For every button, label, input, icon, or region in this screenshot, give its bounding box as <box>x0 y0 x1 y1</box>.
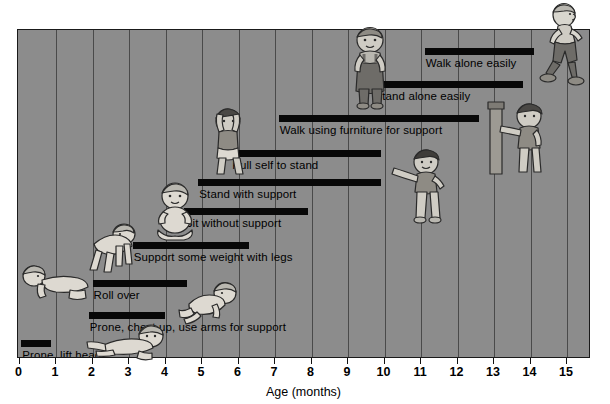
tick-label-11: 11 <box>413 365 426 379</box>
tick-mark-11 <box>420 358 421 364</box>
tick-label-6: 6 <box>234 365 241 379</box>
tick-mark-0 <box>19 358 20 364</box>
milestones-chart: Walk alone easilyStand alone easilyWalk … <box>0 0 610 404</box>
tick-label-15: 15 <box>559 365 573 379</box>
tick-label-10: 10 <box>377 365 391 379</box>
tick-label-1: 1 <box>52 365 59 379</box>
gridline-month-12 <box>458 30 459 357</box>
baby-prone-chest-up <box>18 262 90 306</box>
tick-mark-5 <box>201 358 202 364</box>
gridline-month-2 <box>93 30 94 357</box>
baby-rolling-over <box>173 280 239 324</box>
bar-prone-chest-up <box>89 312 166 319</box>
gridline-month-8 <box>312 30 313 357</box>
bar-stand-alone-easily <box>374 81 524 88</box>
tick-label-3: 3 <box>125 365 132 379</box>
toddler-running-figure <box>539 3 601 95</box>
tick-mark-3 <box>128 358 129 364</box>
tick-label-7: 7 <box>271 365 278 379</box>
tick-label-9: 9 <box>344 365 351 379</box>
tick-label-8: 8 <box>307 365 314 379</box>
tick-mark-10 <box>384 358 385 364</box>
toddler-standing-overalls <box>345 27 395 109</box>
tick-mark-4 <box>165 358 166 364</box>
bar-walk-alone-easily <box>425 48 535 55</box>
tick-label-5: 5 <box>198 365 205 379</box>
bar-walk-using-furniture-label: Walk using furniture for support <box>280 124 443 136</box>
plot-clip: Walk alone easilyStand alone easilyWalk … <box>18 30 589 357</box>
toddler-cruising-furniture <box>488 100 546 178</box>
tick-mark-6 <box>238 358 239 364</box>
tick-mark-7 <box>274 358 275 364</box>
bar-walk-alone-easily-label: Walk alone easily <box>426 57 517 69</box>
tick-mark-13 <box>493 358 494 364</box>
toddler-standing-alone <box>392 148 448 224</box>
gridline-month-14 <box>531 30 532 357</box>
bar-prone-lift-head <box>21 340 50 347</box>
tick-label-13: 13 <box>486 365 500 379</box>
tick-label-12: 12 <box>450 365 464 379</box>
tick-mark-2 <box>92 358 93 364</box>
tick-mark-12 <box>457 358 458 364</box>
bar-roll-over-label: Roll over <box>94 289 140 301</box>
baby-sitting-unsupported <box>148 182 202 244</box>
bar-walk-using-furniture <box>279 115 480 122</box>
tick-mark-15 <box>566 358 567 364</box>
tick-label-14: 14 <box>523 365 537 379</box>
gridline-month-1 <box>56 30 57 357</box>
x-axis-label: Age (months) <box>17 385 590 399</box>
gridline-month-13 <box>494 30 495 357</box>
plot-area: Walk alone easilyStand alone easilyWalk … <box>17 29 590 358</box>
tick-label-2: 2 <box>88 365 95 379</box>
bar-sit-without-support <box>184 208 308 215</box>
bar-stand-with-support-label: Stand with support <box>199 188 296 200</box>
baby-pulling-to-stand <box>206 106 254 178</box>
tick-label-4: 4 <box>161 365 168 379</box>
tick-mark-8 <box>311 358 312 364</box>
bar-support-some-weight-label: Support some weight with legs <box>134 251 293 263</box>
tick-mark-9 <box>347 358 348 364</box>
tick-mark-14 <box>530 358 531 364</box>
gridline-month-3 <box>129 30 130 357</box>
tick-label-0: 0 <box>15 365 22 379</box>
x-axis: 0123456789101112131415 Age (months) <box>17 358 590 404</box>
tick-mark-1 <box>55 358 56 364</box>
baby-prone-lift-head <box>83 324 169 360</box>
bar-stand-with-support <box>198 179 381 186</box>
